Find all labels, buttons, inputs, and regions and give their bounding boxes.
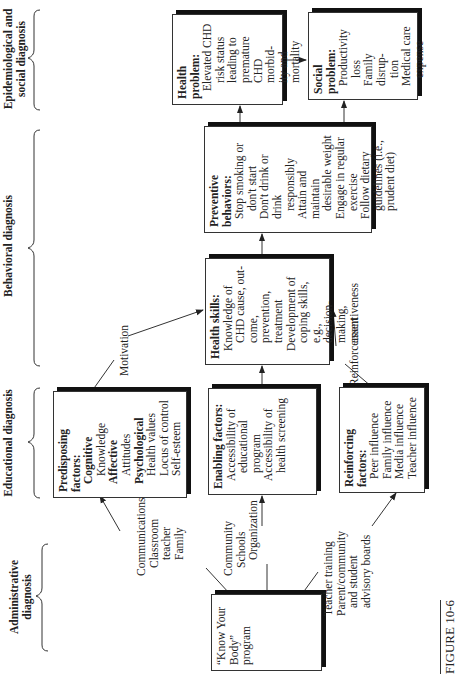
connector-line: Classroom (148, 519, 160, 576)
box-line: tion (388, 18, 401, 94)
reinforcing-factors-box: Reinforcing factors: Peer influence Fami… (339, 387, 425, 493)
connector-line: Teacher training (322, 541, 334, 616)
box-title: Enabling factors: (212, 394, 225, 489)
box-line: exercise (347, 132, 360, 227)
box-line: guidelines (i.e., (372, 132, 385, 227)
header-administrative: Administrative diagnosis (8, 543, 33, 651)
box-line: premature (239, 20, 252, 99)
box-line: educational (237, 394, 250, 489)
box-line: risk status (214, 20, 227, 99)
box-title: Health skills: (209, 264, 222, 359)
know-your-body-program-box: “Know Your Body” program (211, 594, 322, 671)
connector-line: advisory boards (360, 535, 372, 616)
health-problem-box: Health problem: Elevated CHD risk status… (172, 14, 283, 105)
box-line: Attain and maintain (296, 132, 321, 227)
box-line: Elevated CHD (201, 20, 214, 99)
box-line: Development of (285, 264, 298, 359)
box-line: Productivity (337, 18, 350, 94)
preventive-behaviors-box: Preventive behaviors: Stop smoking or do… (204, 126, 372, 233)
box-line: Teacher influence (406, 393, 419, 487)
label-to-reinforcing: Teacher training Parent/community and st… (322, 506, 372, 616)
box-line: assertiveness (348, 264, 361, 359)
box-line: leading to (226, 20, 239, 99)
header-educational: Educational diagnosis (2, 388, 15, 498)
connector-line: teacher (160, 527, 172, 576)
label-to-enabling: Community Schools Organization (222, 496, 260, 576)
box-line: Family disrup- (362, 18, 387, 94)
program-line: Body” (228, 600, 241, 665)
box-line: Family influence (381, 393, 394, 487)
box-line: Medical care (400, 18, 413, 94)
group-item: Attitudes (120, 397, 133, 492)
box-line: CHD cause, out- (234, 264, 247, 359)
box-title: Preventive (208, 132, 221, 227)
connector-line: Schools (235, 532, 247, 576)
box-line: Stop smoking or (233, 132, 246, 227)
box-line: loss (350, 18, 363, 94)
box-line: Accessibility of (225, 394, 238, 489)
connector-line: Community (222, 521, 234, 576)
predisposing-factors-box: Predisposing factors: Cognitive Knowledg… (53, 391, 187, 498)
diagram-stage: Administrative diagnosis Educational dia… (0, 0, 465, 676)
box-title: Predisposing (57, 397, 70, 492)
box-line: Accessibility of (262, 394, 275, 489)
box-line: mortality (289, 20, 302, 99)
box-title: factors: (356, 393, 369, 487)
box-line: Follow dietary (359, 132, 372, 227)
box-line: responsibly (284, 132, 297, 227)
group-cognitive: Cognitive (82, 397, 95, 492)
connector-line: and student (347, 555, 359, 616)
box-line: CHD morbid- (252, 20, 277, 99)
connector-line: Communications (135, 497, 147, 576)
box-line: expense (413, 18, 426, 94)
label-motivation: Motivation (118, 325, 131, 376)
box-line: treatment (272, 264, 285, 359)
group-item: Knowledge (95, 397, 108, 492)
connector-line: Parent/community (335, 531, 347, 616)
program-line: “Know Your (215, 600, 228, 665)
connector-line: Family (173, 527, 185, 576)
box-line: desirable weight (321, 132, 334, 227)
figure-label: FIGURE 10-6 (440, 600, 458, 674)
program-line: program (240, 600, 253, 665)
group-item: Health values (145, 397, 158, 492)
box-line: Knowledge of (222, 264, 235, 359)
group-item: Self-esteem (170, 397, 183, 492)
box-title: behaviors: (221, 132, 234, 227)
box-line: decision-making, (322, 264, 347, 359)
connector-line: Organization (247, 500, 259, 576)
social-problem-box: Social problem: Productivity loss Family… (308, 12, 418, 100)
box-line: Peer influence (368, 393, 381, 487)
box-line: prudent diet) (384, 132, 397, 227)
box-line: Don't drink or drink (258, 132, 283, 227)
box-title: factors: (70, 397, 83, 492)
header-epidemiological: Epidemiological and social diagnosis (2, 8, 27, 110)
box-line: Media influence (393, 393, 406, 487)
box-line: ity and (277, 20, 290, 99)
group-psychological: Psychological (133, 397, 146, 492)
group-affective: Affective (107, 397, 120, 492)
box-line: coping skills, e.g., (297, 264, 322, 359)
health-skills-box: Health skills: Knowledge of CHD cause, o… (205, 258, 330, 365)
header-behavioral: Behavioral diagnosis (2, 186, 15, 306)
box-line: don't start (246, 132, 259, 227)
enabling-factors-box: Enabling factors: Accessibility of educa… (208, 388, 317, 495)
box-line: health screening (275, 394, 288, 489)
box-title: Reinforcing (343, 393, 356, 487)
box-title: Social problem: (312, 18, 337, 94)
group-item: Locus of control (158, 397, 171, 492)
box-line: program (250, 394, 263, 489)
box-line: Engage in regular (334, 132, 347, 227)
box-line: come, prevention, (247, 264, 272, 359)
box-title: Health problem: (176, 20, 201, 99)
